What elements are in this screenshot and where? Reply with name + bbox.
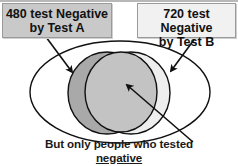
box-a-line2: by Test A [3, 21, 111, 35]
box-b-line2: by Test B [138, 35, 235, 49]
caption-negative-emphasis: negative [0, 151, 238, 165]
label-box-test-b: 720 test Negative by Test B [137, 3, 236, 38]
caption-line2: on both tests are considered negative [0, 164, 238, 166]
intersection-circle [85, 52, 157, 132]
caption-line2-prefix: on [0, 164, 238, 166]
box-b-line1: 720 test Negative [138, 7, 235, 35]
box-a-line1: 480 test Negative [3, 7, 111, 21]
caption-line1-text: But only people who tested [0, 137, 238, 151]
label-box-test-a: 480 test Negative by Test A [2, 3, 112, 38]
caption: But only people who tested negative on b… [0, 137, 238, 166]
caption-line1: But only people who tested negative [0, 137, 238, 164]
